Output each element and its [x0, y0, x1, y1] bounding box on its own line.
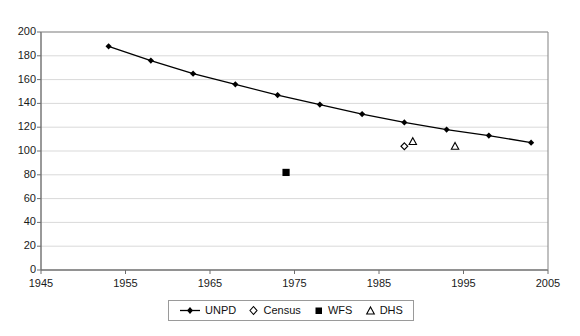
filled-square-icon: [313, 305, 324, 316]
y-tick-label: 100: [4, 144, 36, 156]
legend-item-dhs: DHS: [365, 305, 403, 316]
legend-label-census: Census: [263, 305, 300, 316]
legend-label-dhs: DHS: [380, 305, 403, 316]
legend-item-unpd: UNPD: [179, 305, 236, 316]
chart-figure: 200180160140120100806040200 194519551965…: [0, 0, 580, 336]
y-tick-label: 0: [4, 263, 36, 275]
tick-marks: [37, 32, 548, 274]
x-tick-label: 1955: [101, 277, 151, 289]
y-tick-label: 160: [4, 73, 36, 85]
y-tick-label: 120: [4, 120, 36, 132]
x-tick-label: 1965: [185, 277, 235, 289]
series-wfs: [282, 169, 289, 176]
y-tick-label: 40: [4, 215, 36, 227]
legend-item-wfs: WFS: [313, 305, 352, 316]
y-tick-label: 80: [4, 168, 36, 180]
y-tick-label: 200: [4, 25, 36, 37]
legend-item-census: Census: [248, 305, 300, 316]
x-tick-label: 1945: [16, 277, 66, 289]
legend-label-wfs: WFS: [328, 305, 352, 316]
open-diamond-icon: [248, 305, 259, 316]
chart-legend: UNPD Census WFS DHS: [168, 300, 414, 321]
x-tick-label: 1995: [439, 277, 489, 289]
y-tick-label: 180: [4, 49, 36, 61]
series-unpd: [106, 43, 535, 146]
line-diamond-icon: [179, 305, 201, 316]
open-triangle-icon: [365, 305, 376, 316]
series-census: [401, 143, 408, 150]
y-tick-label: 60: [4, 192, 36, 204]
x-tick-label: 1985: [354, 277, 404, 289]
x-tick-label: 1975: [270, 277, 320, 289]
y-tick-label: 20: [4, 239, 36, 251]
gridlines: [41, 32, 548, 246]
x-tick-label: 2005: [523, 277, 573, 289]
legend-label-unpd: UNPD: [205, 305, 236, 316]
series-dhs: [409, 138, 459, 150]
y-tick-label: 140: [4, 96, 36, 108]
